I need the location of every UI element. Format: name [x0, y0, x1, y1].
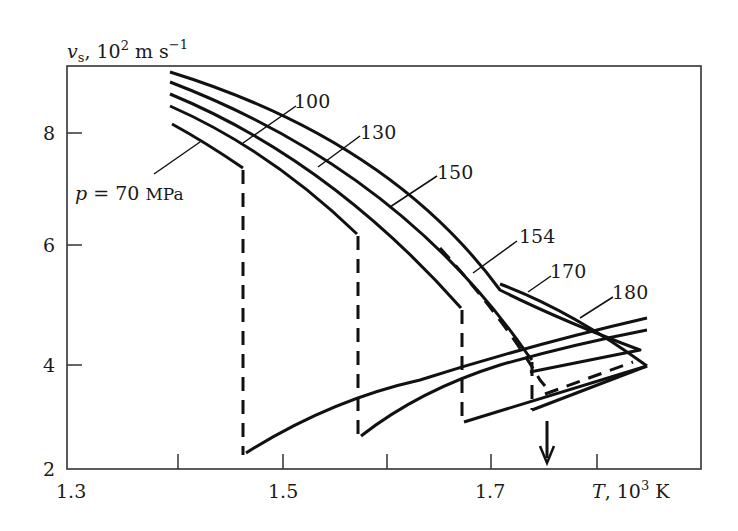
y-tick-label-2: 2	[43, 458, 55, 480]
y-ticks	[67, 133, 82, 365]
x-axis-title: T, 103 K	[592, 478, 670, 502]
curve-label-130: 130	[360, 121, 396, 143]
curve-130-lower	[464, 366, 647, 422]
x-tick-label-1.5: 1.5	[268, 480, 298, 502]
curve-label-100: 100	[294, 90, 330, 112]
x-tick-label-1.7: 1.7	[475, 480, 505, 502]
curve-70-upper	[172, 124, 243, 168]
y-tick-label-8: 8	[43, 122, 55, 144]
curve-150-upper	[170, 82, 532, 360]
down-arrow-icon	[540, 421, 554, 463]
y-axis-title: vs, 102 m s−1	[67, 37, 188, 65]
curve-label-70: p = 70 MPa	[75, 182, 184, 204]
curve-170	[170, 72, 640, 372]
curve-150-lower	[532, 366, 647, 410]
curve-label-180: 180	[612, 281, 648, 303]
curve-label-170: 170	[550, 260, 586, 282]
curve-label-154: 154	[519, 225, 555, 247]
y-tick-label-4: 4	[43, 354, 55, 376]
chart: 8 6 4 2 1.3 1.5 1.7 vs, 102 m s−1 T, 103…	[0, 0, 738, 531]
x-tick-label-1.3: 1.3	[56, 480, 86, 502]
x-ticks	[178, 454, 597, 469]
curve-label-150: 150	[437, 161, 473, 183]
y-tick-label-6: 6	[43, 234, 55, 256]
